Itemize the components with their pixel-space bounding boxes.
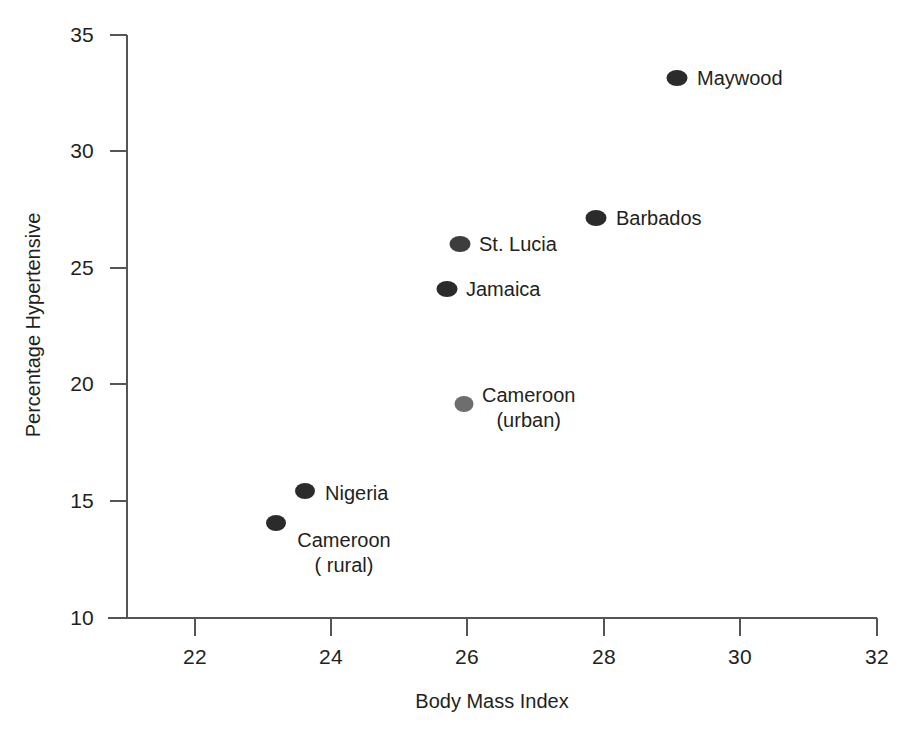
y-tick-label-10: 10 [46,606,94,630]
data-point-jamaica[interactable] [437,281,458,297]
x-tick-label-30: 30 [728,645,752,669]
data-label-maywood: Maywood [697,66,783,91]
data-point-cameroon-urban[interactable] [455,396,474,412]
data-label-cameroon-rural-line2: ( rural) [315,554,374,576]
data-label-cameroon-rural: Cameroon( rural) [264,528,424,578]
data-label-nigeria: Nigeria [325,481,388,506]
x-tick-label-24: 24 [319,645,343,669]
y-tick-label-30: 30 [46,139,94,163]
plot-area: 35 30 25 20 15 10 22 24 26 28 30 32 Body… [0,0,910,737]
data-label-cameroon-urban-line1: Cameroon [482,384,575,406]
y-axis-title: Percentage Hypertensive [22,213,45,438]
x-tick-label-22: 22 [183,645,207,669]
data-label-cameroon-urban: Cameroon(urban) [482,383,575,433]
data-label-cameroon-urban-line2: (urban) [482,408,575,433]
y-tick-label-25: 25 [46,256,94,280]
data-label-jamaica: Jamaica [466,277,540,302]
y-tick-label-15: 15 [46,489,94,513]
data-point-barbados[interactable] [586,210,607,226]
data-point-st-lucia[interactable] [450,236,471,252]
x-tick-label-32: 32 [865,645,889,669]
x-tick-label-28: 28 [592,645,616,669]
data-label-barbados: Barbados [616,206,702,231]
scatter-chart-figure: 35 30 25 20 15 10 22 24 26 28 30 32 Body… [0,0,910,737]
data-label-cameroon-rural-line1: Cameroon [297,529,390,551]
chart-axes [0,0,910,737]
y-tick-label-35: 35 [46,23,94,47]
data-label-st-lucia: St. Lucia [479,232,557,257]
y-tick-label-20: 20 [46,372,94,396]
x-tick-label-26: 26 [455,645,479,669]
data-point-maywood[interactable] [667,70,688,86]
x-axis-title: Body Mass Index [415,690,568,713]
data-point-nigeria[interactable] [295,483,315,499]
